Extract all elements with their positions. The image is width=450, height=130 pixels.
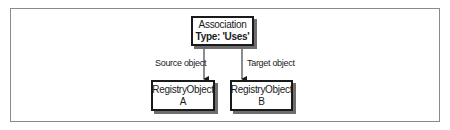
registry-object-a-title: RegistryObject bbox=[152, 84, 213, 96]
association-node: Association Type: 'Uses' bbox=[191, 16, 254, 46]
target-object-label: Target object bbox=[247, 58, 295, 68]
registry-object-b-node: RegistryObject B bbox=[230, 80, 293, 111]
association-type: Type: 'Uses' bbox=[196, 31, 250, 43]
registry-object-b-title: RegistryObject bbox=[231, 84, 292, 96]
association-title: Association bbox=[199, 19, 247, 31]
registry-object-b-id: B bbox=[258, 96, 264, 108]
registry-object-a-node: RegistryObject A bbox=[151, 80, 215, 111]
source-object-label: Source object bbox=[155, 58, 206, 68]
registry-object-a-id: A bbox=[180, 96, 186, 108]
